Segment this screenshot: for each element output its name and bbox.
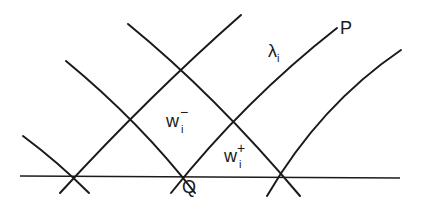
lambda-base: λ — [268, 41, 277, 61]
lambda-i-line — [171, 28, 337, 193]
far-right-rising-curve — [267, 50, 401, 196]
label-w-plus: w — [223, 146, 238, 166]
characteristics-diagram: P λi w − i w + i Q — [0, 0, 422, 209]
w-minus-sub: i — [181, 123, 183, 135]
lambda-sub: i — [277, 52, 279, 64]
horizontal-axis — [20, 176, 400, 178]
far-left-falling-line — [23, 136, 89, 193]
label-w-minus: w — [165, 111, 180, 131]
label-p: P — [340, 18, 352, 38]
w-minus-base: w — [165, 111, 180, 131]
label-lambda-i: λi — [268, 41, 279, 64]
w-plus-base: w — [223, 146, 238, 166]
w-plus-sub: i — [239, 158, 241, 170]
w-minus-sup: − — [180, 104, 188, 120]
w-plus-sup: + — [237, 140, 245, 156]
label-q: Q — [182, 177, 196, 197]
